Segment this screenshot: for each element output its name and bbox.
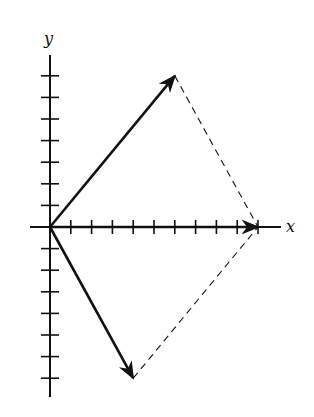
dashed-construction-line <box>133 227 258 378</box>
x-axis-label: x <box>286 217 295 236</box>
vector-a <box>50 76 175 227</box>
vector-b <box>50 227 133 378</box>
y-axis-label: y <box>43 29 54 48</box>
vectors <box>50 76 258 378</box>
dashed-construction-line <box>175 76 258 227</box>
vector-diagram: y x <box>0 0 314 417</box>
